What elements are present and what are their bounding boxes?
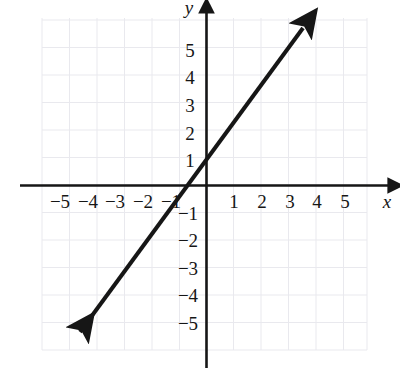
y-tick-label-1: 1: [185, 151, 195, 170]
y-tick-label--3: −3: [178, 259, 198, 278]
y-tick-label--4: −4: [178, 286, 198, 305]
y-tick-label-5: 5: [185, 41, 195, 60]
grid-lines: [42, 18, 367, 350]
x-tick-label-3: 3: [285, 192, 295, 211]
x-tick-label--4: −4: [78, 192, 98, 211]
x-tick-label-4: 4: [312, 192, 322, 211]
x-tick-label-2: 2: [257, 192, 267, 211]
graph-figure: −5 −4 −3 −2 −1 1 2 3 4 5 5 4 3 2 1 −1 −2…: [0, 0, 400, 371]
x-tick-label--5: −5: [50, 192, 70, 211]
x-tick-label-1: 1: [229, 192, 239, 211]
y-tick-label--1: −1: [178, 204, 198, 223]
y-tick-label-4: 4: [185, 68, 195, 87]
x-tick-label-5: 5: [340, 192, 350, 211]
x-tick-label--2: −2: [133, 192, 153, 211]
x-axis-label: x: [383, 192, 391, 211]
y-tick-label--2: −2: [178, 231, 198, 250]
y-tick-label--5: −5: [178, 314, 198, 333]
x-tick-label--3: −3: [105, 192, 125, 211]
coordinate-plane-canvas: [0, 0, 400, 371]
y-tick-label-2: 2: [185, 124, 195, 143]
y-tick-label-3: 3: [185, 96, 195, 115]
y-axis-label: y: [185, 0, 193, 17]
